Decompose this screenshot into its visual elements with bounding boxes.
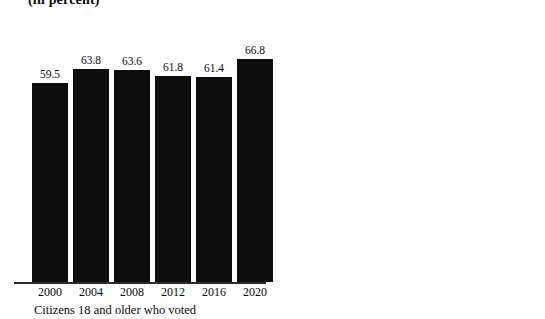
x-tick-label: 2012 <box>155 285 191 300</box>
bar-value-label: 66.8 <box>245 44 265 57</box>
x-tick-label: 2020 <box>237 285 273 300</box>
bar-slot[interactable]: 61.8 <box>155 0 191 282</box>
bar-value-label: 59.5 <box>40 68 60 81</box>
plot-area-voted: 59.563.863.661.861.466.8 <box>0 0 278 282</box>
bar-value-label: 61.4 <box>204 62 224 75</box>
bar-rect[interactable] <box>196 77 232 282</box>
bar-rect[interactable] <box>73 69 109 282</box>
panel-voted: 59.563.863.661.861.466.8 200020042008201… <box>0 0 278 319</box>
x-tick-label: 2004 <box>73 285 109 300</box>
x-tick-label: 2000 <box>32 285 68 300</box>
bar-group-voted: 59.563.863.661.861.466.8 <box>32 0 273 282</box>
panel-caption-voted: Citizens 18 and older who voted <box>34 303 196 318</box>
panel-registered: 69.572.171.071.270.372.7 200020042008201… <box>278 0 545 319</box>
x-axis-line-voted <box>14 282 266 284</box>
bar-rect[interactable] <box>237 59 273 282</box>
bar-slot[interactable]: 59.5 <box>32 0 68 282</box>
bar-value-label: 63.8 <box>81 54 101 67</box>
bar-rect[interactable] <box>32 83 68 282</box>
bar-value-label: 63.6 <box>122 55 142 68</box>
x-axis-ticks-voted: 200020042008201220162020 <box>32 285 273 300</box>
bar-value-label: 61.8 <box>163 61 183 74</box>
bar-slot[interactable]: 66.8 <box>237 0 273 282</box>
bar-slot[interactable]: 63.6 <box>114 0 150 282</box>
bar-rect[interactable] <box>114 70 150 282</box>
bar-slot[interactable]: 61.4 <box>196 0 232 282</box>
plot-area-registered: 69.572.171.071.270.372.7 <box>278 0 545 282</box>
chart-page: (in percent) 59.563.863.661.861.466.8 20… <box>0 0 545 319</box>
bar-rect[interactable] <box>155 76 191 282</box>
x-tick-label: 2008 <box>114 285 150 300</box>
bar-slot[interactable]: 63.8 <box>73 0 109 282</box>
x-tick-label: 2016 <box>196 285 232 300</box>
